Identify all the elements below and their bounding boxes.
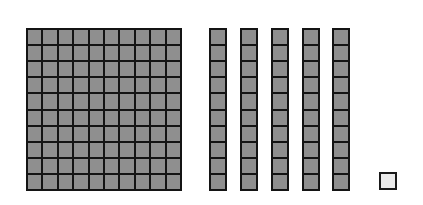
flat-cell — [167, 78, 180, 92]
flat-cell — [74, 175, 87, 189]
flat-cell — [167, 30, 180, 44]
flat-cell — [43, 30, 56, 44]
flat-cell — [151, 62, 164, 76]
rod-cell — [242, 127, 256, 141]
rod-cell — [242, 46, 256, 60]
flat-cell — [120, 143, 133, 157]
rod-cell — [242, 62, 256, 76]
rod-cell — [273, 159, 287, 173]
rod-cell — [273, 111, 287, 125]
rod-cell — [273, 62, 287, 76]
flat-cell — [151, 111, 164, 125]
flat-cell — [105, 159, 118, 173]
flat-cell — [151, 159, 164, 173]
flat-cell — [90, 111, 103, 125]
flat-cell — [43, 78, 56, 92]
flat-cell — [90, 175, 103, 189]
rod-cell — [273, 46, 287, 60]
flat-cell — [43, 62, 56, 76]
flat-cell — [167, 159, 180, 173]
rod-cell — [334, 46, 348, 60]
rod-cell — [242, 143, 256, 157]
flat-cell — [43, 127, 56, 141]
flat-cell — [43, 111, 56, 125]
flat-cell — [43, 143, 56, 157]
flat-cell — [167, 143, 180, 157]
flat-cell — [136, 94, 149, 108]
flat-cell — [90, 62, 103, 76]
flat-cell — [90, 143, 103, 157]
rod-cell — [334, 175, 348, 189]
rod-cell — [334, 111, 348, 125]
flat-cell — [28, 127, 41, 141]
flat-cell — [74, 143, 87, 157]
flat-cell — [28, 143, 41, 157]
flat-cell — [28, 78, 41, 92]
flat-cell — [74, 46, 87, 60]
flat-cell — [167, 175, 180, 189]
flat-cell — [59, 111, 72, 125]
rod-cell — [242, 30, 256, 44]
flat-cell — [120, 46, 133, 60]
flat-cell — [28, 30, 41, 44]
flat-cell — [28, 175, 41, 189]
flat-cell — [120, 78, 133, 92]
rod-cell — [211, 46, 225, 60]
flat-cell — [120, 159, 133, 173]
flat-cell — [120, 30, 133, 44]
flat-cell — [167, 111, 180, 125]
flat-cell — [90, 159, 103, 173]
flat-cell — [136, 30, 149, 44]
flat-cell — [105, 143, 118, 157]
flat-cell — [136, 111, 149, 125]
flat-cell — [120, 127, 133, 141]
rod-cell — [304, 143, 318, 157]
flat-cell — [90, 78, 103, 92]
flat-cell — [90, 30, 103, 44]
tens-rod-1 — [209, 28, 227, 191]
rod-cell — [304, 46, 318, 60]
flat-cell — [105, 62, 118, 76]
rod-cell — [211, 175, 225, 189]
flat-cell — [167, 62, 180, 76]
flat-cell — [59, 62, 72, 76]
flat-cell — [90, 94, 103, 108]
rod-cell — [334, 94, 348, 108]
rod-cell — [304, 94, 318, 108]
flat-cell — [90, 127, 103, 141]
flat-cell — [136, 78, 149, 92]
rod-cell — [334, 62, 348, 76]
flat-cell — [105, 111, 118, 125]
rod-cell — [211, 78, 225, 92]
flat-cell — [28, 111, 41, 125]
rod-cell — [304, 62, 318, 76]
flat-cell — [43, 46, 56, 60]
flat-cell — [120, 94, 133, 108]
flat-cell — [90, 46, 103, 60]
rod-cell — [242, 78, 256, 92]
rod-cell — [273, 30, 287, 44]
rod-cell — [304, 111, 318, 125]
rod-cell — [304, 159, 318, 173]
rod-cell — [211, 111, 225, 125]
rod-cell — [334, 159, 348, 173]
flat-cell — [105, 127, 118, 141]
flat-cell — [120, 175, 133, 189]
rod-cell — [242, 111, 256, 125]
tens-rod-2 — [240, 28, 258, 191]
flat-cell — [59, 78, 72, 92]
rod-cell — [273, 78, 287, 92]
flat-cell — [167, 94, 180, 108]
flat-cell — [59, 94, 72, 108]
flat-cell — [167, 46, 180, 60]
rod-cell — [304, 127, 318, 141]
flat-cell — [151, 46, 164, 60]
tens-rod-5 — [332, 28, 350, 191]
flat-cell — [151, 143, 164, 157]
rod-cell — [242, 175, 256, 189]
rod-cell — [304, 30, 318, 44]
rod-cell — [211, 94, 225, 108]
flat-cell — [59, 30, 72, 44]
flat-cell — [105, 30, 118, 44]
flat-cell — [151, 175, 164, 189]
